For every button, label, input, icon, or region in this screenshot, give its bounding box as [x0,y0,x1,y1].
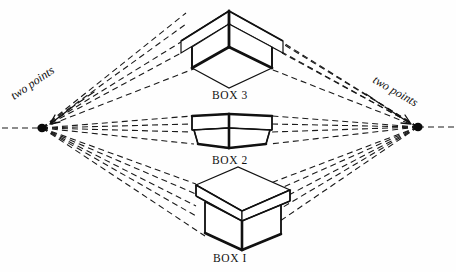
box-2-shape [192,114,272,148]
box-2-label: BOX 2 [212,154,248,166]
box-1-shape [196,167,290,250]
left-fan-box3 [42,13,196,128]
vanishing-point-right-dot [413,123,422,131]
box-1-label: BOX I [213,252,247,264]
left-fan-box1 [42,128,205,236]
perspective-diagram: two points two points BOX 3 BOX 2 BOX I [0,0,456,272]
vanishing-point-left-dot [37,124,46,132]
right-fan-box1 [258,127,418,236]
box-3-label: BOX 3 [212,89,248,101]
perspective-drawing-canvas: two points two points BOX 3 BOX 2 BOX I [0,0,456,272]
vanishing-point-right-label: two points [371,72,421,109]
box-3-shape [181,11,283,88]
vanishing-point-left-label: two points [8,63,57,103]
left-label-arrow [50,105,75,124]
